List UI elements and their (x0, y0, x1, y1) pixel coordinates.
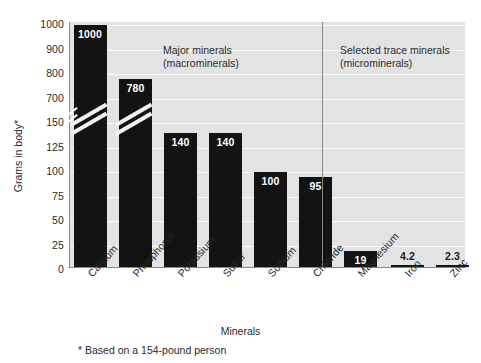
bar-value-label: 140 (164, 136, 197, 148)
bar-sulfur (209, 133, 242, 267)
y-tick-label: 1000 (4, 18, 64, 30)
x-axis-title: Minerals (0, 325, 481, 337)
group-divider-line (322, 22, 323, 267)
y-tick-label: 25 (4, 239, 64, 251)
bar-column: 1000 (74, 22, 107, 267)
mineral-composition-bar-chart: 100078014014010095194.22.30.070.02 10009… (0, 0, 481, 363)
y-axis-ticks: 10009008007001501251007550250 (0, 0, 64, 363)
chart-footnote: * Based on a 154-pound person (78, 344, 226, 356)
bar-value-label: 780 (119, 82, 152, 94)
bar-value-label: 1000 (74, 28, 102, 40)
bar-value-label: 140 (209, 136, 242, 148)
group-label-macrominerals: Major minerals (macrominerals) (163, 44, 239, 70)
bar-value-label: 95 (299, 180, 332, 192)
bar-potassium (164, 133, 197, 267)
y-tick-label: 900 (4, 43, 64, 55)
y-tick-label: 800 (4, 67, 64, 79)
bar-column: 95 (299, 22, 332, 267)
group-label-microminerals: Selected trace minerals (microminerals) (340, 44, 450, 70)
bar-value-label: 100 (254, 175, 287, 187)
y-axis-title: Grams in body* (12, 86, 24, 226)
y-axis-line (69, 22, 70, 268)
bar-column: 780 (119, 22, 152, 267)
bar-column: 100 (254, 22, 287, 267)
y-tick-label: 0 (4, 263, 64, 275)
bar-calcium (74, 25, 107, 267)
axis-break-marker (62, 96, 82, 124)
